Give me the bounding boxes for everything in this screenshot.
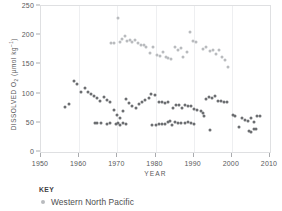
data-point — [119, 124, 122, 127]
data-point — [123, 35, 126, 38]
gridline-vertical — [194, 6, 195, 152]
x-tick-label: 1990 — [184, 160, 200, 167]
data-point — [162, 51, 165, 54]
data-point — [147, 96, 150, 99]
data-point — [255, 128, 258, 131]
y-tick-label: 200 — [22, 31, 34, 38]
data-point — [124, 97, 127, 100]
data-point — [134, 106, 137, 109]
data-point — [64, 106, 67, 109]
y-axis-title: DISSOLVED O2 (µmol kg–1) — [9, 14, 19, 154]
data-point — [169, 120, 172, 123]
data-point — [249, 117, 252, 120]
data-point — [117, 16, 120, 19]
data-point — [227, 65, 230, 68]
y-axis-title-subscript: 2 — [14, 78, 19, 81]
data-point — [152, 46, 155, 49]
data-point — [163, 122, 166, 125]
data-point — [118, 116, 121, 119]
data-point — [75, 82, 78, 85]
data-point — [217, 49, 220, 52]
legend-entries: Western North Pacific — [39, 196, 269, 207]
y-tick-label: 150 — [22, 60, 34, 67]
y-tick-mark — [36, 34, 40, 35]
gridline-vertical — [232, 6, 233, 152]
data-point — [226, 101, 229, 104]
data-point — [202, 114, 205, 117]
gridline-vertical — [79, 6, 80, 152]
data-point — [249, 130, 252, 133]
data-point — [204, 45, 207, 48]
legend-marker-icon — [41, 200, 45, 204]
x-tick-mark — [40, 153, 41, 157]
data-point — [145, 46, 148, 49]
data-point — [125, 122, 128, 125]
data-point — [99, 122, 102, 125]
data-point — [170, 57, 173, 60]
data-point — [192, 122, 195, 125]
data-point — [68, 102, 71, 105]
data-point — [195, 40, 198, 43]
x-tick-label: 1950 — [32, 160, 48, 167]
gridline-vertical — [117, 6, 118, 152]
data-point — [246, 120, 249, 123]
data-point — [204, 97, 207, 100]
data-point — [130, 104, 133, 107]
x-tick-label: 2000 — [223, 160, 239, 167]
data-point — [179, 47, 182, 50]
x-tick-label: 1980 — [146, 160, 162, 167]
gridline-vertical — [156, 6, 157, 152]
data-point — [118, 41, 121, 44]
y-tick-label: 0 — [30, 148, 34, 155]
x-tick-label: 2010 — [261, 160, 277, 167]
x-tick-label: 1960 — [70, 160, 86, 167]
x-tick-mark — [116, 153, 117, 157]
y-tick-label: 100 — [22, 89, 34, 96]
y-tick-label: 50 — [26, 118, 34, 125]
data-point — [121, 38, 124, 41]
plot-area — [40, 5, 271, 153]
y-axis-title-unit-open: (µmol kg — [10, 47, 17, 78]
data-point — [182, 56, 185, 59]
data-point — [153, 93, 156, 96]
data-point — [214, 94, 217, 97]
data-point — [237, 125, 240, 128]
chart-figure: 050100150200250 DISSOLVED O2 (µmol kg–1)… — [0, 0, 282, 211]
data-point — [259, 115, 262, 118]
x-tick-mark — [155, 153, 156, 157]
data-point — [189, 30, 192, 33]
data-point — [113, 42, 116, 45]
y-tick-mark — [36, 5, 40, 6]
data-point — [159, 55, 162, 58]
legend: KEY Western North Pacific — [39, 186, 269, 207]
legend-title: KEY — [39, 186, 269, 193]
y-tick-mark — [36, 92, 40, 93]
data-point — [171, 124, 174, 127]
data-point — [143, 99, 146, 102]
data-point — [181, 106, 184, 109]
y-axis-title-prefix: DISSOLVED O — [10, 81, 17, 130]
data-point — [252, 120, 255, 123]
data-point — [109, 100, 112, 103]
data-point — [167, 101, 170, 104]
y-axis-title-unit-close: ) — [10, 38, 17, 41]
data-point — [112, 108, 115, 111]
data-point — [172, 107, 175, 110]
x-tick-mark — [193, 153, 194, 157]
data-point — [214, 52, 217, 55]
data-point — [220, 55, 223, 58]
data-point — [121, 110, 124, 113]
data-point — [211, 48, 214, 51]
data-point — [234, 115, 237, 118]
y-axis-title-superscript: –1 — [9, 41, 14, 47]
x-tick-mark — [269, 153, 270, 157]
x-tick-label: 1970 — [108, 160, 124, 167]
y-axis: 050100150200250 — [0, 0, 40, 158]
legend-item: Western North Pacific — [39, 196, 269, 207]
data-point — [140, 101, 143, 104]
y-tick-label: 250 — [22, 2, 34, 9]
legend-item-label: Western North Pacific — [51, 197, 134, 207]
data-point — [149, 51, 152, 54]
data-point — [80, 90, 83, 93]
data-point — [109, 122, 112, 125]
